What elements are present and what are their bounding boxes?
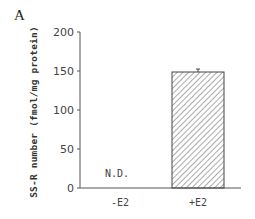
y-tick-label: 100 bbox=[53, 104, 74, 117]
bar-chart: 200 150 100 50 0 N.D. -E2 +E2 bbox=[0, 0, 255, 219]
bar-plus-e2 bbox=[172, 72, 224, 188]
y-tick-label: 200 bbox=[53, 26, 74, 39]
y-tick-label: 150 bbox=[53, 65, 74, 78]
y-tick-label: 50 bbox=[60, 143, 74, 156]
nd-annotation: N.D. bbox=[105, 168, 129, 179]
x-category-label: -E2 bbox=[111, 197, 129, 208]
x-category-label: +E2 bbox=[189, 197, 207, 208]
y-tick-label: 0 bbox=[67, 182, 74, 195]
